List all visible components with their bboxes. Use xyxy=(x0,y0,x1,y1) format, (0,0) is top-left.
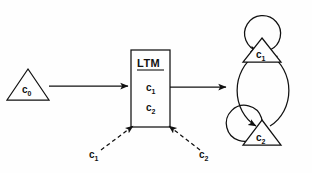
edge-cycle-right xyxy=(270,55,289,126)
edge-dashed-input-right xyxy=(169,126,200,150)
dashed-input-right-label: c2 xyxy=(199,149,209,162)
diagram-canvas: c0 LTM c1 c2 c1 c2 c1 c2 xyxy=(0,0,312,173)
edge-dashed-input-left xyxy=(101,126,133,150)
ltm-item-c1: c1 xyxy=(146,82,156,95)
ltm-title: LTM xyxy=(137,57,160,69)
dashed-input-left-label: c1 xyxy=(89,149,99,162)
ltm-item-c2: c2 xyxy=(146,102,156,115)
edge-cycle-left xyxy=(237,55,256,126)
source-triangle-label: c0 xyxy=(22,84,32,97)
